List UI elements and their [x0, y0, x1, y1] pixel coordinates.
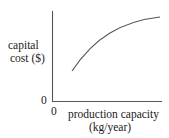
y-axis-zero-tick: 0 — [41, 94, 47, 107]
cost-curve — [72, 17, 160, 71]
y-axis-label-line1: capital — [8, 39, 45, 52]
x-axis-label: production capacity (kg/year) — [68, 108, 152, 134]
x-axis-zero-tick: 0 — [51, 105, 57, 118]
x-axis-label-line2: (kg/year) — [68, 121, 152, 134]
y-axis-label: capital cost ($) — [8, 39, 45, 65]
y-axis-label-line2: cost ($) — [8, 52, 45, 65]
x-axis-label-line1: production capacity — [68, 108, 152, 121]
